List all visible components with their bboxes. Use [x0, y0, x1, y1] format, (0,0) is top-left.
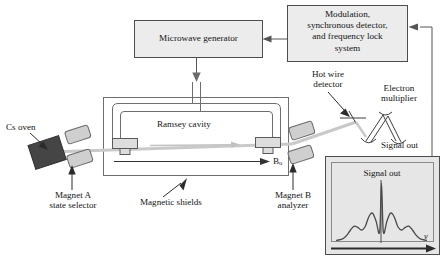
hot-wire-label-line-1: Hot wire — [294, 69, 362, 79]
control-to-generator-arrowhead — [263, 36, 272, 43]
cs-oven-body — [28, 136, 66, 170]
control-system-line-2: synchronous detector, — [287, 20, 408, 31]
cs-oven-leader-line — [30, 133, 42, 144]
magnet-a-label-line-2: state selector — [28, 200, 118, 210]
magnet-a-label-line-1: Magnet A — [28, 190, 118, 200]
inset-x-axis-label: ν — [424, 232, 428, 242]
cavity-end-left — [113, 139, 138, 155]
electron-multiplier-label-line-1: Electron — [362, 83, 436, 93]
hot-wire-leader-line — [328, 92, 344, 110]
magnet-a-label: Magnet A state selector — [28, 190, 118, 211]
hot-wire-leader-arrowhead — [340, 109, 350, 118]
hot-wire-label-line-2: detector — [294, 79, 362, 89]
b-field-subscript: o — [279, 159, 282, 166]
b-field-arrowhead — [260, 158, 270, 165]
detector-to-multiplier-line — [356, 122, 366, 137]
microwave-generator-label: Microwave generator — [134, 33, 263, 44]
magnetic-shields-leader-arrowhead — [180, 178, 188, 191]
magnet-b-pole-lower — [287, 145, 314, 165]
signal-out-label: Signal out — [381, 140, 418, 150]
magnetic-shields-leader-line — [163, 183, 181, 197]
magnet-b-label: Magnet B analyzer — [250, 190, 336, 211]
magnet-a-pole-upper — [64, 125, 91, 145]
control-system-line-4: system — [287, 43, 408, 54]
inset-title: Signal out — [348, 168, 416, 178]
magnet-b-label-line-2: analyzer — [250, 200, 336, 210]
hot-wire-detector-label: Hot wire detector — [294, 69, 362, 90]
electron-multiplier-glyph — [361, 112, 406, 144]
generator-to-cavity-arrowhead — [192, 73, 200, 83]
magnetic-shields-label: Magnetic shields — [140, 197, 202, 207]
control-system-line-3: and frequency lock — [287, 31, 408, 42]
electron-multiplier-label-line-2: multiplier — [362, 93, 436, 103]
ramsey-cavity-label: Ramsey cavity — [157, 119, 211, 129]
control-system-label: Modulation, synchronous detector, and fr… — [287, 9, 408, 54]
figure-canvas: Modulation, synchronous detector, and fr… — [0, 0, 445, 260]
control-system-line-1: Modulation, — [287, 9, 408, 20]
electron-multiplier-label: Electron multiplier — [362, 83, 436, 104]
magnet-b-leader-arrowhead — [289, 163, 296, 173]
magnet-b-label-line-1: Magnet B — [250, 190, 336, 200]
cavity-end-right — [256, 138, 281, 154]
feedback-arrowhead — [409, 24, 419, 31]
cs-oven-label: Cs oven — [6, 122, 36, 132]
b-field-label: Bo — [273, 156, 282, 169]
beam-direction-line — [150, 145, 232, 146]
